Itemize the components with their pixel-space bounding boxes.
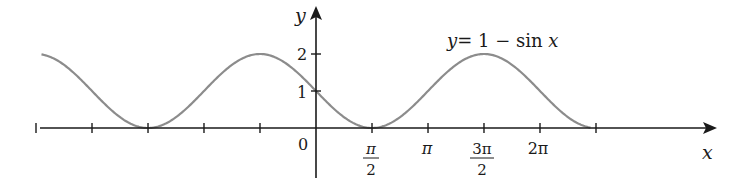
x-axis-label: x xyxy=(702,141,713,163)
origin-label: 0 xyxy=(298,135,308,154)
svg-text:π: π xyxy=(365,140,377,158)
y-axis-label: y xyxy=(294,4,306,26)
y-tick-label-1: 1 xyxy=(297,83,307,102)
equation-label: y= 1 − sin x xyxy=(446,30,558,51)
chart-canvas: y x 0 2 1 π 2 π 3π 2 2π y= 1 − sin x xyxy=(0,0,743,190)
svg-text:2: 2 xyxy=(477,161,487,179)
y-tick-label-2: 2 xyxy=(297,45,307,64)
x-tick-label-3pi-over-2: 3π 2 xyxy=(470,140,494,179)
x-tick-label-pi: π xyxy=(421,139,433,158)
svg-text:3π: 3π xyxy=(472,140,492,158)
x-tick-label-pi-over-2: π 2 xyxy=(363,140,379,179)
svg-text:2: 2 xyxy=(366,161,376,179)
x-tick-label-2pi: 2π xyxy=(528,139,549,158)
